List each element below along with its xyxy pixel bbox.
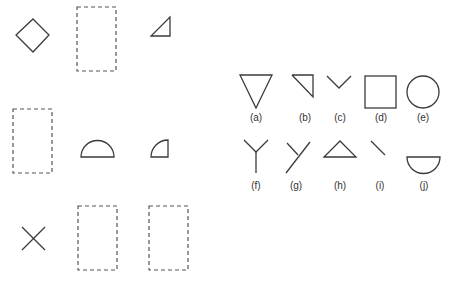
option-f-shape bbox=[244, 140, 268, 173]
option-c-label: (c) bbox=[334, 112, 346, 123]
option-i-shape bbox=[371, 141, 385, 155]
diamond-shape bbox=[16, 19, 49, 52]
option-c-shape bbox=[327, 76, 351, 88]
option-e-shape bbox=[407, 76, 439, 108]
dashed-placeholder-4 bbox=[149, 206, 188, 270]
dashed-placeholder-3 bbox=[78, 206, 117, 270]
option-f-label: (f) bbox=[251, 180, 260, 191]
dashed-placeholder-2 bbox=[13, 109, 52, 173]
option-d-label: (d) bbox=[375, 112, 387, 123]
semicircle-shape bbox=[81, 141, 114, 158]
option-g-label: (g) bbox=[290, 180, 302, 191]
dashed-placeholder-1 bbox=[77, 7, 116, 71]
option-b-label: (b) bbox=[299, 112, 311, 123]
option-d-shape bbox=[365, 76, 396, 108]
x-cross-shape bbox=[22, 227, 45, 250]
option-h-label: (h) bbox=[334, 180, 346, 191]
option-a-shape bbox=[240, 75, 272, 108]
option-g-shape bbox=[286, 142, 310, 173]
option-i-label: (i) bbox=[376, 180, 385, 191]
option-j-shape bbox=[407, 157, 440, 174]
option-e-label: (e) bbox=[417, 112, 429, 123]
right-triangle-shape bbox=[151, 17, 170, 36]
option-b-shape bbox=[292, 75, 313, 97]
shape-puzzle-figure: (a) (b) (c) (d) (e) (f) (g) (h) (i) (j) bbox=[0, 0, 456, 285]
option-j-label: (j) bbox=[420, 180, 429, 191]
option-a-label: (a) bbox=[250, 112, 262, 123]
option-h-shape bbox=[324, 141, 356, 157]
quarter-circle-shape bbox=[151, 140, 168, 157]
